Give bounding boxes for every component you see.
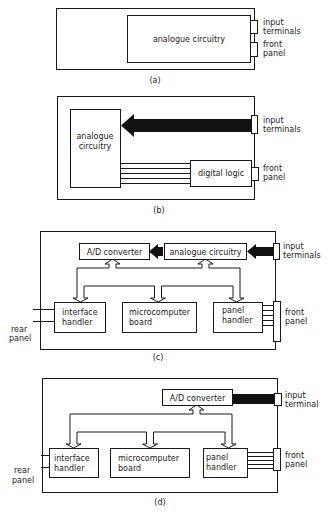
analogue-label-b: analogue bbox=[76, 132, 113, 141]
input-terminal-label-d: input bbox=[285, 391, 306, 400]
diagram-a: analogue circuitry input terminals front… bbox=[57, 9, 301, 86]
board-label-c: board bbox=[129, 318, 152, 327]
input-terminals-label-b-2: terminals bbox=[263, 125, 301, 134]
input-terminals-label-b: input bbox=[263, 116, 284, 125]
instrument-architecture-diagram: analogue circuitry input terminals front… bbox=[0, 0, 331, 517]
diagram-b: analogue circuitry input terminals digit… bbox=[58, 97, 301, 216]
input-terminals-connector-c bbox=[274, 244, 280, 260]
board-label-d: board bbox=[118, 464, 141, 473]
input-terminal-connector-d bbox=[275, 394, 282, 406]
front-panel-label-a: front bbox=[263, 40, 282, 49]
panel-handler-label-d: handler bbox=[206, 463, 237, 472]
front-panel-connector-d bbox=[274, 449, 281, 471]
circuitry-label-b: circuitry bbox=[79, 142, 112, 151]
caption-a: (a) bbox=[149, 76, 160, 85]
panel-label-c: panel bbox=[222, 306, 244, 315]
input-terminals-label-a-2: terminals bbox=[263, 27, 301, 36]
rear-panel-label-c: rear bbox=[11, 325, 28, 334]
front-panel-label-a-2: panel bbox=[263, 49, 285, 58]
front-panel-label-c: front bbox=[285, 308, 304, 317]
interface-label-d: interface bbox=[54, 454, 90, 463]
input-terminals-label-c: input bbox=[283, 242, 304, 251]
input-signal-bar-d bbox=[233, 394, 274, 404]
microcomputer-label-c: microcomputer bbox=[129, 308, 191, 317]
interface-handler-block-d bbox=[50, 449, 99, 478]
front-panel-connector-b bbox=[252, 168, 259, 181]
input-terminal-label-d-2: terminal bbox=[285, 400, 318, 409]
front-panel-label-c-2: panel bbox=[285, 317, 307, 326]
handler-label-c: handler bbox=[62, 318, 93, 327]
front-panel-label-d-2: panel bbox=[285, 460, 307, 469]
front-panel-label-b: front bbox=[263, 164, 282, 173]
panel-label-d: panel bbox=[206, 453, 228, 462]
caption-d: (d) bbox=[154, 498, 165, 507]
caption-c: (c) bbox=[153, 353, 164, 362]
analogue-circuitry-label-a: analogue circuitry bbox=[153, 35, 225, 44]
adc-label-d: A/D converter bbox=[170, 394, 226, 403]
rear-panel-label-d-2: panel bbox=[12, 476, 34, 485]
input-terminals-connector-a bbox=[251, 21, 258, 34]
microcomputer-board-block-d bbox=[111, 449, 190, 478]
input-terminals-label-a: input bbox=[263, 18, 284, 27]
rear-panel-label-c-2: panel bbox=[9, 334, 31, 343]
diagram-c: A/D converter analogue circuitry input t… bbox=[9, 232, 321, 363]
handler-label-d: handler bbox=[54, 464, 85, 473]
adc-label-c: A/D converter bbox=[87, 248, 143, 257]
digital-logic-label-b: digital logic bbox=[198, 169, 244, 178]
input-terminals-connector-b bbox=[252, 116, 258, 134]
front-panel-connector-a bbox=[251, 43, 258, 57]
analogue-circuitry-label-c: analogue circuitry bbox=[169, 248, 241, 257]
caption-b: (b) bbox=[153, 206, 164, 215]
microcomputer-label-d: microcomputer bbox=[118, 454, 180, 463]
panel-handler-label-c: handler bbox=[222, 316, 253, 325]
front-panel-connector-c bbox=[274, 302, 281, 342]
input-terminals-label-c-2: terminals bbox=[283, 251, 321, 260]
front-panel-label-d: front bbox=[285, 451, 304, 460]
rear-panel-label-d: rear bbox=[14, 466, 31, 475]
diagram-d: A/D converter input terminal interface h… bbox=[12, 379, 318, 508]
interface-label-c: interface bbox=[62, 308, 98, 317]
front-panel-label-b-2: panel bbox=[263, 173, 285, 182]
